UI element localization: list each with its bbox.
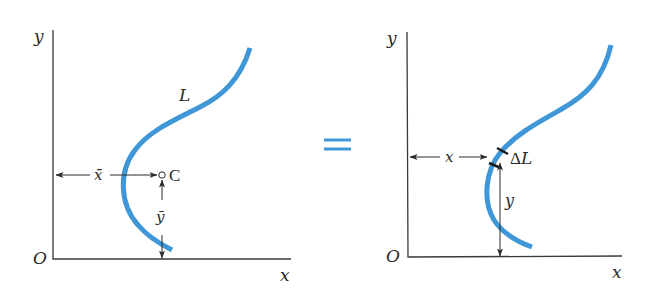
- right-y-axis-label: y: [386, 28, 397, 48]
- xbar-label: x̄: [94, 166, 103, 184]
- centroid-label-C: C: [169, 166, 180, 185]
- right-origin-label: O: [386, 246, 400, 266]
- equals-sign: [324, 140, 351, 149]
- left-axes: [53, 30, 291, 259]
- right-axes: [407, 32, 622, 257]
- y-dim-label: y: [504, 191, 515, 210]
- centroid-of-line-diagram: y x O L x̄ C ȳ y x O ΔL x: [0, 0, 649, 297]
- left-panel: y x O L x̄ C ȳ: [33, 26, 291, 285]
- curve-label-L: L: [178, 85, 190, 105]
- right-x-axis-label: x: [612, 262, 622, 282]
- ybar-label: ȳ: [155, 208, 165, 226]
- left-y-axis-label: y: [33, 26, 44, 46]
- centroid-point-icon: [159, 172, 165, 178]
- left-curve-L: [123, 48, 250, 250]
- right-curve: [487, 45, 611, 247]
- x-dim-label: x: [445, 148, 454, 166]
- element-label-deltaL: ΔL: [510, 148, 532, 168]
- left-x-axis-label: x: [280, 265, 290, 285]
- left-origin-label: O: [33, 248, 47, 268]
- right-panel: y x O ΔL x y: [386, 28, 622, 282]
